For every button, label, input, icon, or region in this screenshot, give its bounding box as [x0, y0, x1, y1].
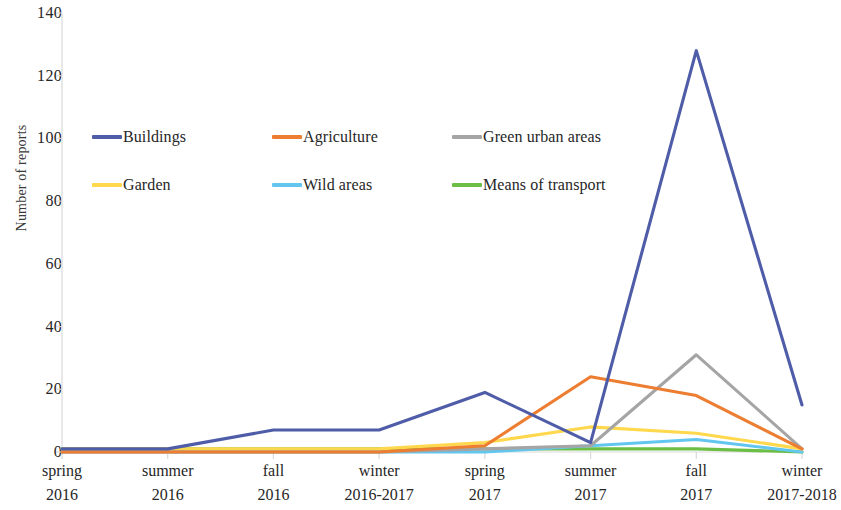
series-line-green-urban-areas: [62, 355, 802, 452]
y-axis-tick-labels: 020406080100120140: [0, 0, 62, 470]
legend-label: Buildings: [123, 128, 186, 146]
legend-swatch-icon: [452, 135, 482, 138]
y-tick-label: 100: [6, 129, 62, 147]
x-tick-season: spring: [465, 462, 505, 479]
x-tick-label: winter2017-2018: [742, 459, 841, 507]
plot-svg: [62, 13, 802, 452]
plot-area: [62, 13, 802, 452]
legend-label: Agriculture: [303, 128, 378, 146]
x-tick-year: 2016: [213, 483, 333, 507]
x-tick-label: spring2017: [425, 459, 545, 507]
x-tick-season: summer: [142, 462, 194, 479]
x-axis-tick-labels: spring2016summer2016fall2016winter2016-2…: [62, 459, 802, 509]
legend-item-wild-areas[interactable]: Wild areas: [272, 176, 452, 194]
x-tick-year: 2017-2018: [742, 483, 841, 507]
x-tick-year: 2017: [425, 483, 545, 507]
x-tick-label: spring2016: [2, 459, 122, 507]
legend-label: Wild areas: [303, 176, 372, 194]
legend-label: Garden: [123, 176, 171, 194]
y-tick-label: 60: [6, 255, 62, 273]
legend-item-agriculture[interactable]: Agriculture: [272, 128, 452, 146]
legend-item-green-urban-areas[interactable]: Green urban areas: [452, 128, 632, 146]
legend-item-means-of-transport[interactable]: Means of transport: [452, 176, 632, 194]
x-tick-season: spring: [42, 462, 82, 479]
x-tick-season: summer: [565, 462, 617, 479]
x-tick-season: fall: [686, 462, 707, 479]
series-line-garden: [62, 427, 802, 449]
legend-item-garden[interactable]: Garden: [92, 176, 272, 194]
x-tick-label: fall2016: [213, 459, 333, 507]
x-tick-label: fall2017: [636, 459, 756, 507]
x-tick-year: 2016: [108, 483, 228, 507]
y-tick-label: 120: [6, 67, 62, 85]
legend-row: GardenWild areasMeans of transport: [92, 176, 652, 224]
x-tick-season: winter: [782, 462, 823, 479]
y-tick-label: 140: [6, 4, 62, 22]
y-tick-label: 40: [6, 318, 62, 336]
legend-swatch-icon: [452, 183, 482, 186]
x-tick-year: 2016: [2, 483, 122, 507]
legend-label: Green urban areas: [483, 128, 601, 146]
legend-row: BuildingsAgricultureGreen urban areas: [92, 128, 652, 176]
chart-legend: BuildingsAgricultureGreen urban areasGar…: [92, 128, 652, 224]
legend-swatch-icon: [92, 135, 122, 138]
legend-swatch-icon: [92, 183, 122, 186]
x-tick-year: 2017: [636, 483, 756, 507]
x-tick-label: summer2017: [531, 459, 651, 507]
y-tick-label: 80: [6, 192, 62, 210]
legend-swatch-icon: [272, 135, 302, 138]
x-tick-year: 2016-2017: [319, 483, 439, 507]
legend-item-buildings[interactable]: Buildings: [92, 128, 272, 146]
y-tick-label: 20: [6, 380, 62, 398]
x-tick-season: fall: [263, 462, 284, 479]
legend-swatch-icon: [272, 183, 302, 186]
x-tick-label: summer2016: [108, 459, 228, 507]
x-tick-year: 2017: [531, 483, 651, 507]
series-line-buildings: [62, 51, 802, 449]
legend-label: Means of transport: [483, 176, 606, 194]
x-tick-season: winter: [359, 462, 400, 479]
x-tick-label: winter2016-2017: [319, 459, 439, 507]
